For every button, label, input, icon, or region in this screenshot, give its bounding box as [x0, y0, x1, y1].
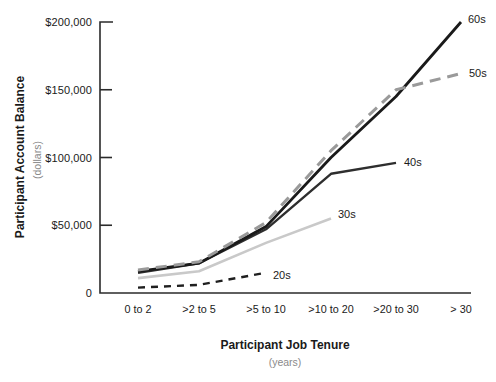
x-axis-category-labels: 0 to 2>2 to 5>5 to 10>10 to 20>20 to 30>…: [124, 303, 471, 315]
x-axis-title: Participant Job Tenure: [220, 338, 349, 352]
x-category-label: >20 to 30: [373, 303, 418, 315]
series-line-50s: [138, 74, 461, 271]
y-axis-tick-labels: 0$50,000$100,000$150,000$200,000: [45, 16, 112, 299]
line-chart: 0$50,000$100,000$150,000$200,000 0 to 2>…: [0, 0, 496, 382]
x-category-label: >10 to 20: [308, 303, 353, 315]
series-label-40s: 40s: [404, 156, 422, 168]
series-line-40s: [138, 163, 396, 273]
x-category-label: >5 to 10: [246, 303, 285, 315]
x-axis-subtitle: (years): [269, 356, 302, 368]
series-label-30s: 30s: [338, 208, 356, 220]
y-tick-label: $100,000: [45, 152, 92, 164]
y-tick-label: $50,000: [52, 219, 92, 231]
y-axis-title: Participant Account Balance: [13, 76, 27, 239]
series-end-labels: 20s30s40s50s60s: [273, 13, 487, 281]
series-line-60s: [138, 22, 461, 271]
y-tick-label: 0: [86, 287, 92, 299]
x-category-label: > 30: [450, 303, 471, 315]
y-axis-subtitle: (dollars): [31, 141, 43, 179]
x-category-label: >2 to 5: [182, 303, 215, 315]
series-label-20s: 20s: [273, 269, 291, 281]
chart-figure: 0$50,000$100,000$150,000$200,000 0 to 2>…: [0, 0, 496, 382]
series-label-50s: 50s: [469, 67, 487, 79]
x-category-label: 0 to 2: [124, 303, 151, 315]
y-tick-label: $150,000: [45, 84, 92, 96]
y-tick-label: $200,000: [45, 16, 92, 28]
series-lines: [138, 22, 461, 288]
series-label-60s: 60s: [468, 13, 486, 25]
